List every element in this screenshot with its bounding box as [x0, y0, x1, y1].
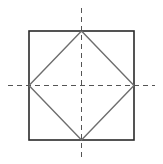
square-with-inscribed-diamond-diagram: [0, 0, 163, 164]
